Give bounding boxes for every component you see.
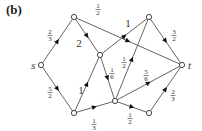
arrowhead-icon	[54, 39, 59, 44]
edge-weight-label: 13	[92, 117, 97, 131]
arrowhead-icon	[54, 86, 59, 91]
arrowhead-icon	[129, 104, 135, 109]
node-F	[146, 110, 151, 115]
edges-layer	[41, 17, 182, 113]
node-C	[146, 14, 151, 19]
svg-text:2: 2	[128, 118, 132, 126]
svg-text:2: 2	[122, 62, 126, 70]
arrowhead-icon	[162, 87, 167, 92]
node-D	[71, 110, 76, 115]
node-E	[112, 98, 117, 103]
edge-weight-label: 1	[78, 84, 84, 96]
svg-text:1: 1	[78, 84, 84, 96]
node-label-t: t	[188, 59, 192, 71]
node-t	[179, 62, 184, 67]
svg-text:2: 2	[172, 35, 176, 43]
svg-text:1: 1	[125, 17, 131, 29]
edge-weight-label: 12	[96, 2, 101, 17]
node-label-s: s	[31, 59, 35, 71]
edge-weight-label: 23	[171, 88, 176, 103]
svg-text:2: 2	[76, 37, 82, 49]
svg-text:3: 3	[171, 95, 175, 103]
node-B	[97, 52, 102, 57]
edge-weight-label: 12	[122, 55, 127, 70]
svg-text:6: 6	[110, 73, 114, 81]
nodes-layer	[38, 14, 184, 115]
svg-text:3: 3	[48, 35, 52, 43]
edge-weight-label: 2	[76, 37, 82, 49]
arrowhead-icon	[84, 33, 89, 38]
node-s	[38, 62, 43, 67]
edge-weight-label: 23	[48, 28, 53, 43]
edge-weight-label: 32	[172, 28, 177, 43]
svg-text:2: 2	[48, 92, 52, 100]
node-A	[71, 14, 76, 19]
edge-weight-label: 16	[110, 66, 115, 81]
arrowhead-icon	[162, 38, 167, 43]
edge-weight-label: 56	[144, 68, 149, 83]
svg-text:2: 2	[96, 9, 100, 17]
edge-weight-label: 52	[48, 85, 53, 100]
arrowhead-icon	[104, 75, 109, 80]
edge-weight-label: 1	[125, 17, 131, 29]
labels-layer: 23522121161131256322312st	[31, 2, 192, 131]
edge-weight-label: 12	[128, 111, 133, 126]
svg-text:6: 6	[144, 75, 148, 83]
flow-network-graph: 23522121161131256322312st	[0, 0, 202, 131]
svg-text:3: 3	[92, 124, 96, 131]
